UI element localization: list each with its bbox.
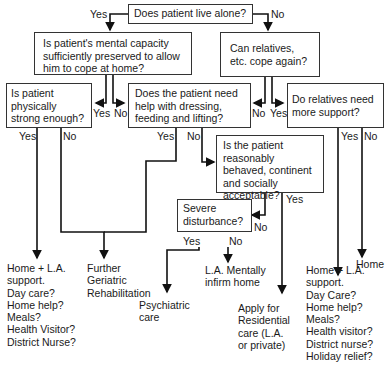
question-text: Does patient live alone? xyxy=(134,7,246,19)
label-q2-no: No xyxy=(114,107,127,119)
question-text: Can relatives, etc. cope again? xyxy=(230,42,307,67)
label-q7-yes: Yes xyxy=(286,193,303,205)
label-q2-yes: Yes xyxy=(93,107,110,119)
label-q1-yes: Yes xyxy=(90,8,107,20)
question-relatives-support: Do relatives need more support? xyxy=(287,83,384,128)
outcome-psychiatric-care: Psychiatric care xyxy=(139,299,190,324)
question-text: Does the patient need help with dressing… xyxy=(135,87,238,124)
question-lives-alone: Does patient live alone? xyxy=(128,4,253,24)
label-q4-yes: Yes xyxy=(19,130,36,142)
question-needs-help: Does the patient need help with dressing… xyxy=(128,83,251,128)
outcome-residential-care: Apply for Residential care (L.A. or priv… xyxy=(238,302,290,351)
label-q5-no: No xyxy=(187,130,200,142)
label-q4-no: No xyxy=(63,130,76,142)
question-severe-disturbance: Severe disturbance? xyxy=(177,199,252,232)
question-text: Severe disturbance? xyxy=(183,202,243,227)
question-relatives-cope: Can relatives, etc. cope again? xyxy=(220,32,320,77)
question-text: Is patient's mental capacity sufficientl… xyxy=(43,37,180,74)
outcome-la-mentally-infirm-home: L.A. Mentally infirm home xyxy=(205,264,266,289)
question-reasonably-behaved: Is the patient reasonably behaved, conti… xyxy=(216,135,324,193)
label-q1-no: No xyxy=(271,8,284,20)
question-physically-strong: Is patient physically strong enough? xyxy=(6,83,92,128)
label-q3-yes: Yes xyxy=(270,107,287,119)
label-q5-yes: Yes xyxy=(157,130,174,142)
question-text: Do relatives need more support? xyxy=(292,93,374,118)
label-q8-no: No xyxy=(229,235,242,247)
outcome-home-la-support: Home + L.A. support. Day care? Home help… xyxy=(7,262,76,348)
label-q7-no: No xyxy=(254,221,267,233)
question-text: Is the patient reasonably behaved, conti… xyxy=(223,139,312,201)
question-mental-capacity: Is patient's mental capacity sufficientl… xyxy=(34,32,192,75)
label-q6-no: No xyxy=(364,130,377,142)
label-q3-no: No xyxy=(252,107,265,119)
outcome-further-rehabilitation: Further Geriatric Rehabilitation xyxy=(87,262,151,299)
label-q6-yes: Yes xyxy=(341,130,358,142)
label-q8-yes: Yes xyxy=(183,235,200,247)
outcome-home-la-support-relatives: Home + L.A. support. Day Care? Home help… xyxy=(306,264,373,362)
question-text: Is patient physically strong enough? xyxy=(11,87,84,124)
